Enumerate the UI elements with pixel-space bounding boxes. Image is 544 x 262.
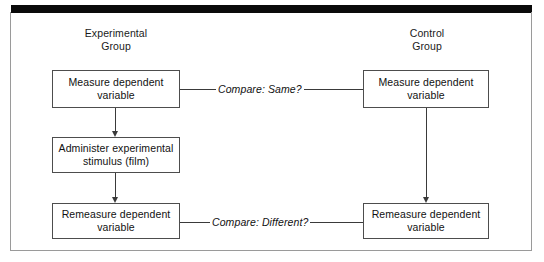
column-header-experimental-group: Experimental Group [52, 27, 180, 53]
arrowhead-down-icon-exp-remeasure [112, 197, 118, 203]
box-exp-remeasure-line1: Remeasure dependent [62, 208, 171, 222]
box-exp-stimulus-line2: stimulus (film) [83, 155, 149, 169]
frame-left-border [10, 12, 11, 251]
connector-segment-left [180, 89, 216, 90]
box-exp-measure-line2: variable [97, 89, 135, 103]
frame-bottom-border [10, 250, 532, 251]
connector-line-exp-measure-to-stimulus [115, 108, 116, 131]
box-experimental-administer-stimulus: Administer experimental stimulus (film) [52, 137, 180, 173]
box-ctl-measure-line1: Measure dependent [378, 76, 473, 90]
connector-compare-same: Compare: Same? [180, 82, 363, 96]
box-ctl-remeasure-line2: variable [407, 221, 445, 235]
box-ctl-measure-line2: variable [407, 89, 445, 103]
column-header-experimental-line1: Experimental [52, 27, 180, 40]
connector-segment-right [310, 222, 363, 223]
arrowhead-down-icon-exp-stimulus [112, 131, 118, 137]
box-exp-measure-line1: Measure dependent [68, 76, 163, 90]
connector-segment-right [304, 89, 363, 90]
connector-line-exp-stimulus-to-remeasure [115, 173, 116, 197]
box-control-measure-dependent-variable: Measure dependent variable [363, 70, 489, 108]
box-ctl-remeasure-line1: Remeasure dependent [372, 208, 481, 222]
connector-line-ctl-measure-to-remeasure [426, 108, 427, 197]
connector-segment-left [180, 222, 210, 223]
connector-compare-different: Compare: Different? [180, 215, 363, 229]
connector-label-compare-different: Compare: Different? [210, 216, 310, 228]
arrowhead-down-icon-ctl-remeasure [423, 197, 429, 203]
column-header-control-line1: Control [363, 27, 491, 40]
experiment-design-diagram: Experimental Group Control Group Measure… [0, 0, 544, 262]
box-exp-stimulus-line1: Administer experimental [59, 142, 174, 156]
box-control-remeasure-dependent-variable: Remeasure dependent variable [363, 203, 489, 239]
column-header-experimental-line2: Group [52, 40, 180, 53]
box-experimental-remeasure-dependent-variable: Remeasure dependent variable [52, 203, 180, 239]
box-exp-remeasure-line2: variable [97, 221, 135, 235]
column-header-control-group: Control Group [363, 27, 491, 53]
column-header-control-line2: Group [363, 40, 491, 53]
frame-right-border [531, 12, 532, 251]
box-experimental-measure-dependent-variable: Measure dependent variable [52, 70, 180, 108]
connector-label-compare-same: Compare: Same? [216, 83, 304, 95]
top-rule-bar [11, 5, 532, 13]
